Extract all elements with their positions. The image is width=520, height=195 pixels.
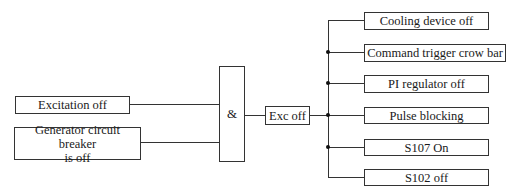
output-s102-off: S102 off bbox=[364, 169, 489, 186]
junction-dot bbox=[326, 145, 330, 149]
output-label: S102 off bbox=[405, 171, 448, 185]
and-gate: & bbox=[219, 66, 245, 162]
output-label: Command trigger crow bar bbox=[367, 46, 503, 60]
output-pi-regulator-off: PI regulator off bbox=[364, 75, 489, 93]
branch-pi-regulator bbox=[328, 83, 364, 84]
branch-s107 bbox=[328, 147, 364, 148]
branch-s102 bbox=[328, 177, 364, 178]
exc-off-box: Exc off bbox=[265, 106, 310, 125]
output-label: Pulse blocking bbox=[390, 109, 464, 123]
and-gate-symbol: & bbox=[227, 107, 237, 121]
junction-dot bbox=[326, 50, 330, 54]
exc-off-label: Exc off bbox=[269, 109, 306, 123]
input-generator-breaker-label-line2: is off bbox=[65, 151, 91, 165]
branch-cooling bbox=[328, 20, 364, 21]
output-label: Cooling device off bbox=[380, 14, 474, 28]
junction-dot bbox=[326, 81, 330, 85]
input-excitation-off: Excitation off bbox=[15, 96, 130, 114]
output-s107-on: S107 On bbox=[364, 139, 489, 156]
output-pulse-blocking: Pulse blocking bbox=[364, 107, 489, 124]
junction-dot bbox=[326, 113, 330, 117]
input-excitation-off-label: Excitation off bbox=[38, 98, 107, 112]
connector-breaker-to-gate bbox=[141, 142, 219, 143]
connector-excitation-to-gate bbox=[130, 104, 219, 105]
output-label: PI regulator off bbox=[388, 77, 465, 91]
output-cooling-device-off: Cooling device off bbox=[364, 12, 489, 30]
branch-crowbar bbox=[328, 52, 364, 53]
input-generator-breaker-off: Generator circuit breaker is off bbox=[14, 127, 141, 160]
input-generator-breaker-label-line1: Generator circuit breaker bbox=[15, 123, 140, 151]
connector-gate-to-exc-off bbox=[245, 115, 265, 116]
output-label: S107 On bbox=[404, 141, 448, 155]
output-command-trigger-crow-bar: Command trigger crow bar bbox=[364, 44, 506, 62]
output-bus bbox=[328, 20, 329, 178]
branch-pulse-blocking bbox=[328, 115, 364, 116]
